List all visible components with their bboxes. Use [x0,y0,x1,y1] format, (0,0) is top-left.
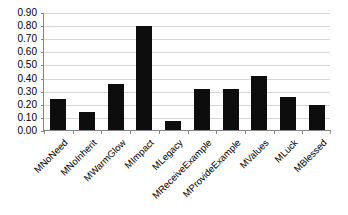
y-axis-tick-label: 0.90 [18,8,37,18]
x-axis-category-label: MValues [238,137,271,170]
bar [136,26,152,130]
bar [194,89,210,130]
y-axis-tick-label: 0.50 [18,60,37,70]
y-axis-tick-label: 0.40 [18,74,37,84]
y-axis-tick-label: 0.80 [18,21,37,31]
y-axis-labels: 0.000.100.200.300.400.500.600.700.800.90 [0,0,40,215]
bar [79,112,95,130]
y-axis-tick-label: 0.20 [18,100,37,110]
y-axis-tick-label: 0.30 [18,87,37,97]
x-axis-tick [330,130,331,134]
plot-area [43,13,330,131]
y-axis-tick-label: 0.00 [18,126,37,136]
bar [108,84,124,130]
y-axis-tick-label: 0.70 [18,34,37,44]
y-axis-tick-label: 0.10 [18,113,37,123]
bar [251,76,267,130]
bar-chart: 0.000.100.200.300.400.500.600.700.800.90… [0,0,348,215]
x-axis-labels: MNoNeedMNoInheritMWarmGlowMImpactMLegacy… [43,131,330,215]
bar [309,105,325,130]
bar [165,121,181,130]
bar [223,89,239,130]
x-axis-category-label: MLuck [272,137,300,165]
bar-series [44,13,330,130]
bar [280,97,296,130]
y-axis-tick-label: 0.60 [18,47,37,57]
bar [50,99,66,130]
